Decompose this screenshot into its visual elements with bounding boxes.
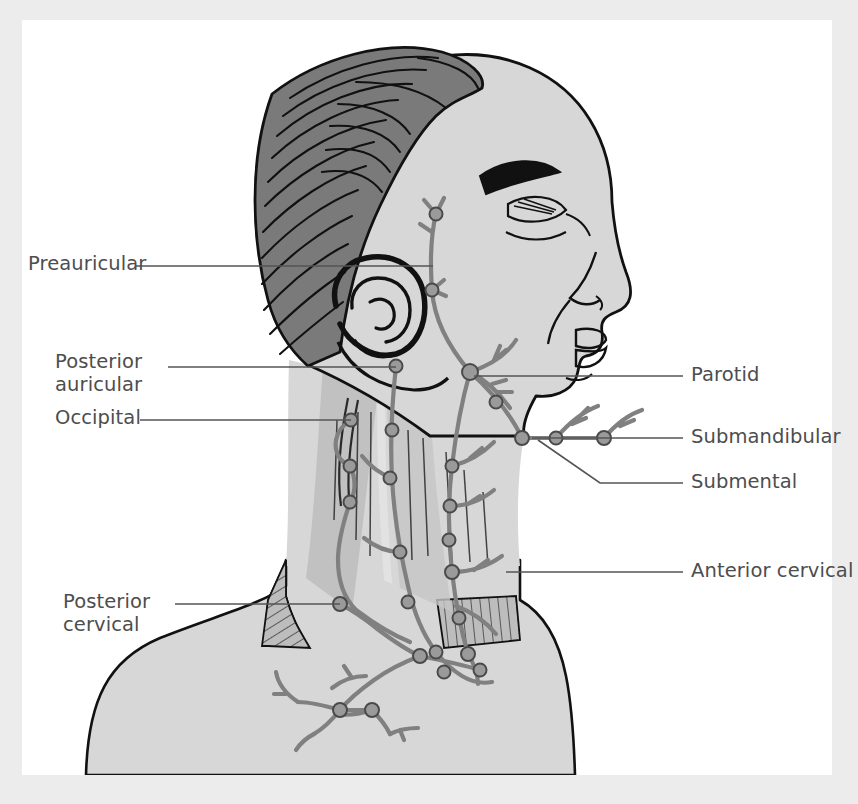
node-posterior-cervical-1 <box>384 472 397 485</box>
label-occipital[interactable]: Occipital <box>55 406 141 429</box>
node-anterior-cervical-5 <box>453 612 466 625</box>
node-posterior-cervical-2 <box>394 546 407 559</box>
node-anterior-cervical-4 <box>445 565 459 579</box>
label-anterior-cervical-line-1: Anterior cervical <box>691 559 853 582</box>
label-parotid-line-1: Parotid <box>691 363 760 386</box>
node-parotid-1 <box>462 364 478 380</box>
label-posterior-cervical-line-2: cervical <box>63 613 150 636</box>
node-supraclavicular-4 <box>474 664 487 677</box>
node-posterior-cervical-4 <box>402 596 415 609</box>
node-anterior-cervical-3 <box>443 534 456 547</box>
label-submandibular-line-1: Submandibular <box>691 425 841 448</box>
label-preauricular[interactable]: Preauricular <box>28 252 146 275</box>
node-anterior-cervical-6 <box>461 647 475 661</box>
label-occipital-line-1: Occipital <box>55 406 141 429</box>
node-preauricular-2 <box>426 284 439 297</box>
label-posterior-auricular[interactable]: Posterior auricular <box>55 350 142 396</box>
label-posterior-auricular-line-2: auricular <box>55 373 142 396</box>
node-parotid-2 <box>490 396 503 409</box>
label-posterior-cervical-line-1: Posterior <box>63 590 150 613</box>
label-posterior-auricular-line-1: Posterior <box>55 350 142 373</box>
node-supraclavicular-6 <box>365 703 379 717</box>
node-anterior-cervical-2 <box>444 500 457 513</box>
node-posterior-auricular-1 <box>390 360 403 373</box>
figure-root: Preauricular Posterior auricular Occipit… <box>0 0 858 804</box>
label-preauricular-line-1: Preauricular <box>28 252 146 275</box>
node-supraclavicular-2 <box>430 646 443 659</box>
node-posterior-auricular-2 <box>386 424 399 437</box>
node-submandibular-1 <box>515 431 529 445</box>
label-parotid[interactable]: Parotid <box>691 363 760 386</box>
label-anterior-cervical[interactable]: Anterior cervical <box>691 559 853 582</box>
node-occipital-3 <box>344 496 357 509</box>
node-occipital-2 <box>344 460 357 473</box>
node-preauricular-1 <box>430 208 443 221</box>
anatomy-illustration <box>0 0 858 804</box>
node-anterior-cervical-1 <box>446 460 459 473</box>
label-posterior-cervical[interactable]: Posterior cervical <box>63 590 150 636</box>
node-supraclavicular-1 <box>413 649 427 663</box>
node-supraclavicular-5 <box>333 703 347 717</box>
node-supraclavicular-3 <box>438 666 451 679</box>
label-submandibular[interactable]: Submandibular <box>691 425 841 448</box>
label-submental-line-1: Submental <box>691 470 797 493</box>
label-submental[interactable]: Submental <box>691 470 797 493</box>
